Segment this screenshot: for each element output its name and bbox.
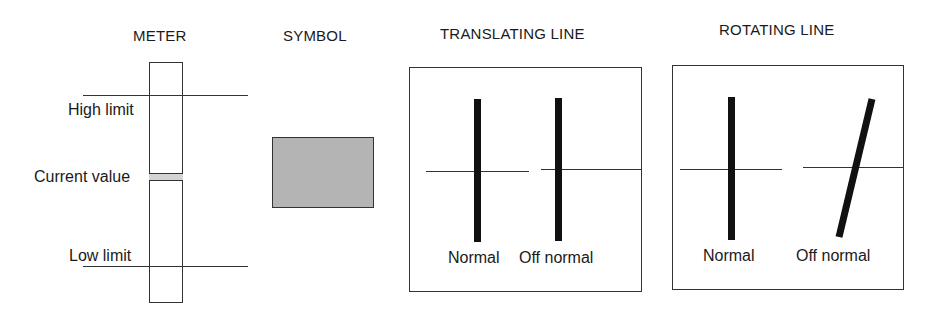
rotating-off-normal-bar	[0, 0, 938, 327]
rotating-off-normal-label: Off normal	[796, 247, 870, 265]
